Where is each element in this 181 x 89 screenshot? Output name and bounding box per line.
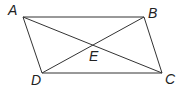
vertex-label-d: D: [31, 72, 41, 88]
diagonal-BD: [42, 17, 144, 73]
diagram-svg: ABCDE: [0, 0, 181, 89]
vertex-label-c: C: [165, 71, 176, 87]
vertex-label-a: A: [7, 2, 17, 18]
vertex-label-e: E: [89, 48, 99, 64]
parallelogram-diagram: ABCDE: [0, 0, 181, 89]
edge-BC: [144, 17, 162, 73]
edge-DA: [23, 17, 42, 73]
vertex-label-b: B: [148, 5, 157, 21]
